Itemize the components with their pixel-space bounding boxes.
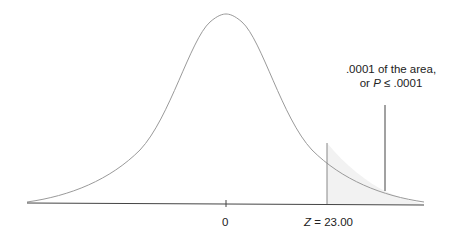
z-cutoff-label: Z = 23.00 (304, 216, 353, 228)
normal-curve-diagram (0, 0, 453, 246)
annotation-line-2: or P ≤ .0001 (335, 76, 447, 90)
bell-curve (27, 14, 424, 202)
area-annotation: .0001 of the area, or P ≤ .0001 (335, 62, 447, 90)
center-label: 0 (222, 216, 228, 228)
annotation-line-1: .0001 of the area, (335, 62, 447, 76)
